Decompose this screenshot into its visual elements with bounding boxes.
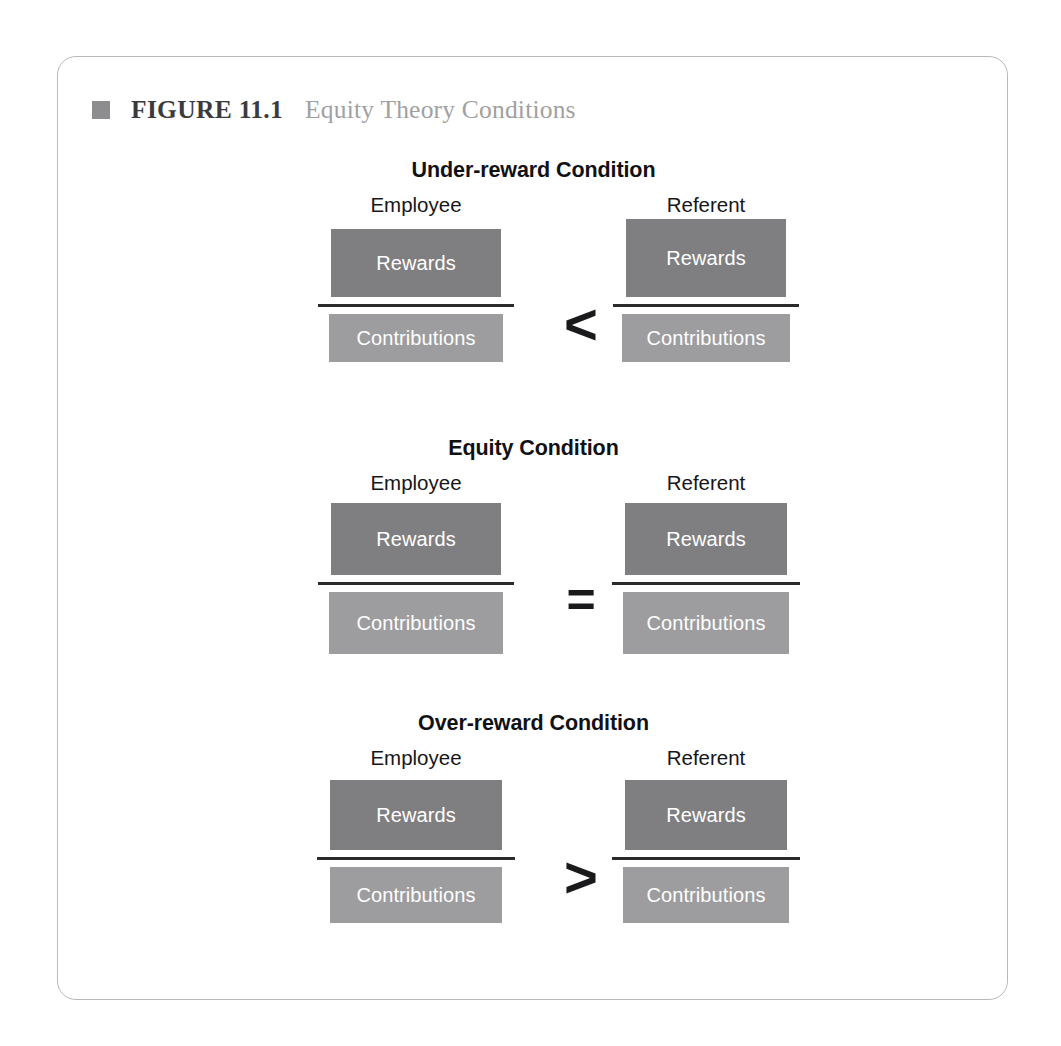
denominator-row: Contributions (581, 592, 831, 656)
numerator-row: Rewards (291, 219, 541, 297)
condition-title: Over-reward Condition (58, 710, 1009, 736)
rewards-box: Rewards (626, 219, 786, 297)
numerator-row: Rewards (581, 772, 831, 850)
rewards-box: Rewards (625, 780, 787, 850)
rewards-box: Rewards (330, 780, 502, 850)
numerator-row: Rewards (291, 772, 541, 850)
figure-number-label: FIGURE 11.1 (131, 95, 283, 125)
denominator-row: Contributions (581, 867, 831, 931)
square-bullet-icon (92, 101, 110, 119)
condition-title: Under-reward Condition (58, 157, 1009, 183)
referent-ratio: Referent Rewards Contributions (581, 191, 831, 378)
employee-ratio: Employee Rewards Contributions (291, 744, 541, 931)
condition-block-equity: Equity Condition Employee Rewards Contri… (58, 435, 1009, 669)
ratio-comparison: Employee Rewards Contributions > Referen… (58, 744, 1009, 944)
condition-block-under-reward: Under-reward Condition Employee Rewards … (58, 157, 1009, 391)
rewards-box: Rewards (331, 229, 501, 297)
referent-ratio: Referent Rewards Contributions (581, 744, 831, 931)
party-label-referent: Referent (581, 744, 831, 772)
rewards-box: Rewards (625, 503, 787, 575)
ratio-comparison: Employee Rewards Contributions = Referen… (58, 469, 1009, 669)
condition-title: Equity Condition (58, 435, 1009, 461)
ratio-divider-line (612, 857, 800, 860)
referent-ratio: Referent Rewards Contributions (581, 469, 831, 656)
condition-block-over-reward: Over-reward Condition Employee Rewards C… (58, 710, 1009, 944)
party-label-employee: Employee (291, 191, 541, 219)
ratio-divider-line (318, 582, 514, 585)
denominator-row: Contributions (291, 314, 541, 378)
numerator-row: Rewards (581, 219, 831, 297)
contributions-box: Contributions (330, 867, 502, 923)
contributions-box: Contributions (329, 592, 503, 654)
contributions-box: Contributions (623, 592, 789, 654)
figure-header: FIGURE 11.1 Equity Theory Conditions (92, 95, 576, 125)
employee-ratio: Employee Rewards Contributions (291, 469, 541, 656)
denominator-row: Contributions (291, 592, 541, 656)
ratio-divider-line (612, 582, 800, 585)
ratio-divider-line (318, 304, 514, 307)
rewards-box: Rewards (331, 503, 501, 575)
party-label-employee: Employee (291, 744, 541, 772)
contributions-box: Contributions (329, 314, 503, 362)
figure-frame: FIGURE 11.1 Equity Theory Conditions Und… (57, 56, 1008, 1000)
party-label-employee: Employee (291, 469, 541, 497)
denominator-row: Contributions (291, 867, 541, 931)
employee-ratio: Employee Rewards Contributions (291, 191, 541, 378)
numerator-row: Rewards (581, 497, 831, 575)
figure-title: Equity Theory Conditions (305, 95, 576, 125)
ratio-comparison: Employee Rewards Contributions < Referen… (58, 191, 1009, 391)
ratio-divider-line (613, 304, 799, 307)
party-label-referent: Referent (581, 469, 831, 497)
denominator-row: Contributions (581, 314, 831, 378)
numerator-row: Rewards (291, 497, 541, 575)
contributions-box: Contributions (622, 314, 790, 362)
ratio-divider-line (317, 857, 515, 860)
contributions-box: Contributions (623, 867, 789, 923)
party-label-referent: Referent (581, 191, 831, 219)
